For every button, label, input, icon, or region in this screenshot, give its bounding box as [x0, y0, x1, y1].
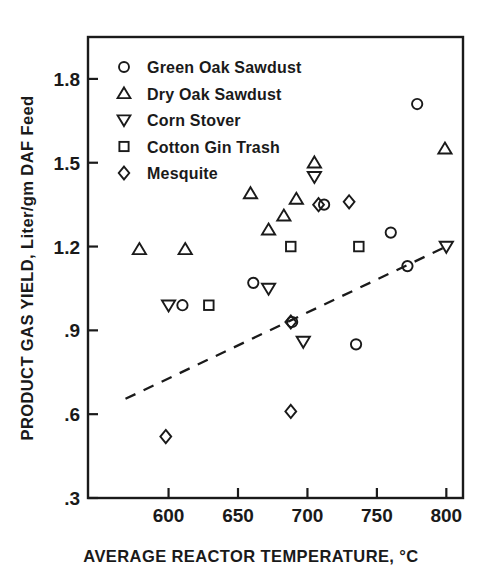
x-tick-label: 800 [430, 505, 462, 526]
y-tick-label: .9 [64, 320, 80, 341]
data-point-triangle-down [297, 337, 310, 348]
y-tick-label: .3 [64, 488, 80, 509]
series-cotton-gin-trash [204, 242, 364, 310]
data-point-square [354, 242, 364, 252]
data-point-triangle-up [179, 243, 192, 254]
data-point-triangle-up [438, 142, 451, 153]
data-point-diamond [344, 195, 355, 208]
x-tick-label: 650 [222, 505, 254, 526]
data-point-triangle-down [162, 300, 175, 311]
data-point-square [204, 300, 214, 310]
legend-marker-triangle-up [118, 87, 131, 98]
legend-marker-triangle-down [118, 115, 131, 126]
legend-marker-square [119, 142, 128, 151]
legend-label: Corn Stover [147, 112, 241, 129]
legend-label: Cotton Gin Trash [147, 139, 280, 156]
series-corn-stover [162, 172, 453, 348]
data-point-triangle-down [262, 284, 275, 295]
y-tick-label: .6 [64, 404, 80, 425]
data-point-circle [248, 278, 258, 288]
x-tick-label: 700 [292, 505, 324, 526]
legend-label: Dry Oak Sawdust [147, 86, 282, 103]
scatter-plot: AVERAGE REACTOR TEMPERATURE, °C PRODUCT … [0, 0, 499, 583]
series-green-oak-sawdust [177, 99, 422, 350]
series-mesquite [160, 195, 354, 443]
chart-figure: AVERAGE REACTOR TEMPERATURE, °C PRODUCT … [0, 0, 499, 583]
y-tick-label: 1.8 [54, 69, 80, 90]
y-axis-ticks: .3.6.91.21.51.8 [54, 69, 98, 509]
x-tick-label: 750 [361, 505, 393, 526]
data-point-triangle-up [133, 243, 146, 254]
data-point-triangle-down [440, 242, 453, 253]
y-tick-label: 1.5 [54, 153, 81, 174]
data-point-circle [351, 339, 361, 349]
x-tick-label: 600 [153, 505, 185, 526]
data-point-circle [412, 99, 422, 109]
data-point-square [286, 242, 296, 252]
data-point-triangle-up [308, 156, 321, 167]
data-point-triangle-up [277, 210, 290, 221]
y-tick-label: 1.2 [54, 237, 80, 258]
legend-label: Mesquite [147, 165, 218, 182]
legend: Green Oak SawdustDry Oak SawdustCorn Sto… [118, 59, 302, 182]
legend-marker-diamond [119, 167, 129, 180]
data-point-circle [386, 227, 396, 237]
data-point-circle [177, 300, 187, 310]
y-axis-title: PRODUCT GAS YIELD, Liter/gm DAF Feed [18, 95, 36, 440]
plot-frame [88, 37, 463, 498]
data-point-triangle-up [290, 193, 303, 204]
data-point-triangle-up [262, 224, 275, 235]
legend-label: Green Oak Sawdust [147, 59, 302, 76]
data-point-triangle-down [308, 172, 321, 183]
x-axis-ticks: 600650700750800 [153, 488, 462, 526]
x-axis-title: AVERAGE REACTOR TEMPERATURE, °C [83, 547, 418, 565]
data-point-diamond [285, 405, 296, 418]
data-point-diamond [160, 430, 171, 443]
legend-marker-circle [119, 62, 129, 72]
series-dry-oak-sawdust [133, 142, 452, 254]
data-point-triangle-up [244, 187, 257, 198]
